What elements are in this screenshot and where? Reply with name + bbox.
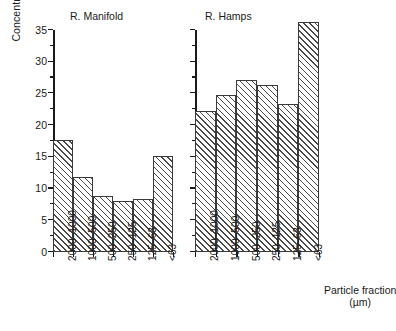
- x-tick-label: <63: [313, 244, 324, 261]
- x-tick: [195, 252, 196, 257]
- panel-title-hamps: R. Hamps: [205, 10, 252, 22]
- y-tick-major: [190, 156, 195, 157]
- x-tick-label: 500–250: [251, 221, 262, 261]
- panel-manifold: R. Manifold 05101520253035 2000–10001000…: [28, 0, 178, 331]
- y-tick-label: 5: [41, 215, 47, 226]
- y-tick-minor: [192, 76, 195, 77]
- x-tick-label: 125–63: [292, 227, 303, 261]
- y-tick-major: [190, 219, 195, 220]
- y-tick-major: [190, 61, 195, 62]
- y-axis-title-main: Concentration of metals (mM.kg: [10, 0, 22, 42]
- y-tick-label: 25: [35, 88, 47, 99]
- y-tick-major: [190, 92, 195, 93]
- x-tick-label: 1000–500: [87, 216, 98, 261]
- x-tick-label: 250–125: [271, 221, 282, 261]
- y-tick-minor: [192, 172, 195, 173]
- y-tick-major: [48, 156, 53, 157]
- y-tick-minor: [192, 45, 195, 46]
- y-tick-minor: [192, 140, 195, 141]
- x-axis-title: Particle fraction (µm): [324, 284, 396, 308]
- y-tick-label: 0: [41, 247, 47, 258]
- y-tick-label: 15: [35, 152, 47, 163]
- x-axis-title-line1: Particle fraction: [324, 284, 396, 296]
- y-tick-minor: [192, 108, 195, 109]
- y-tick-minor: [50, 76, 53, 77]
- y-tick-label: 20: [35, 120, 47, 131]
- x-tick-label: 250–125: [127, 221, 138, 261]
- x-axis-title-line2: (µm): [324, 296, 396, 308]
- y-tick-minor: [50, 108, 53, 109]
- x-tick: [53, 252, 54, 257]
- y-tick-minor: [50, 235, 53, 236]
- y-tick-major: [48, 92, 53, 93]
- y-tick-minor: [192, 235, 195, 236]
- x-tick-label: <63: [167, 244, 178, 261]
- y-tick-minor: [50, 203, 53, 204]
- y-tick-minor: [50, 45, 53, 46]
- bar: [298, 22, 319, 252]
- y-tick-minor: [50, 172, 53, 173]
- x-tick-label: 2000–1000: [209, 210, 220, 261]
- y-tick-major: [48, 29, 53, 30]
- y-tick-label: 35: [35, 25, 47, 36]
- y-tick-major: [48, 124, 53, 125]
- x-tick-label: 1000–500: [230, 216, 241, 261]
- panel-title-manifold: R. Manifold: [70, 10, 123, 22]
- y-tick-major: [48, 61, 53, 62]
- y-axis-title: Concentration of metals (mM.kg−1 ): [8, 0, 26, 58]
- x-tick-label: 125–63: [147, 227, 158, 261]
- y-tick-major: [190, 29, 195, 30]
- y-tick-major: [48, 187, 53, 188]
- y-tick-minor: [50, 140, 53, 141]
- y-tick-minor: [192, 203, 195, 204]
- x-tick-label: 2000–1000: [67, 210, 78, 261]
- y-tick-major: [48, 219, 53, 220]
- panel-hamps: R. Hamps Particle fraction (µm) 2000–100…: [182, 0, 385, 331]
- y-tick-label: 10: [35, 183, 47, 194]
- y-tick-major: [190, 124, 195, 125]
- y-tick-label: 30: [35, 56, 47, 67]
- x-tick-label: 500–250: [107, 221, 118, 261]
- y-tick-major: [190, 187, 195, 188]
